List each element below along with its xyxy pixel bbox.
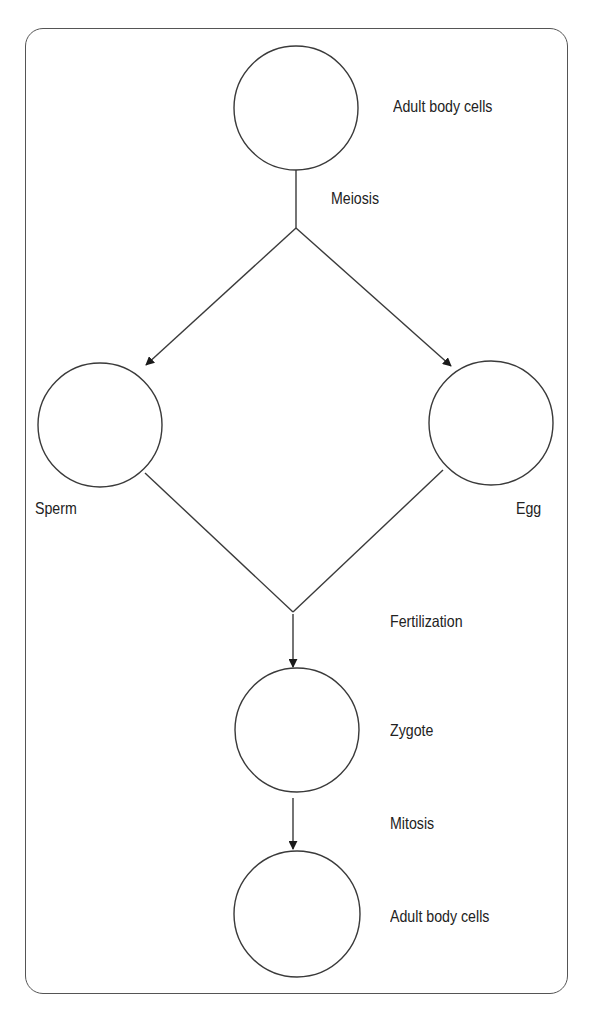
node-egg <box>429 361 553 485</box>
label-adult-body-cells-bottom: Adult body cells <box>390 908 489 925</box>
label-meiosis: Meiosis <box>331 190 379 207</box>
label-fertilization: Fertilization <box>390 613 463 630</box>
edge-meiosis-to-egg <box>296 228 451 366</box>
edge-meiosis-to-sperm <box>146 228 296 365</box>
node-sperm <box>38 363 162 487</box>
life-cycle-diagram <box>0 0 591 1012</box>
edge-egg-to-fertilization <box>293 470 443 612</box>
node-adult-body-cells-bottom <box>234 851 360 977</box>
label-egg: Egg <box>516 500 541 517</box>
label-zygote: Zygote <box>390 722 433 739</box>
label-mitosis: Mitosis <box>390 815 434 832</box>
node-zygote <box>235 668 359 792</box>
label-sperm: Sperm <box>35 500 77 517</box>
edge-sperm-to-fertilization <box>145 473 293 612</box>
node-adult-body-cells-top <box>234 46 358 170</box>
label-adult-body-cells-top: Adult body cells <box>393 98 492 115</box>
